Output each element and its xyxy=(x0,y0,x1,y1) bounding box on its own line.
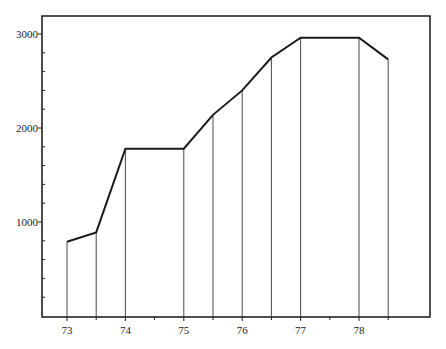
x-tick-label: 75 xyxy=(178,324,190,336)
series-line xyxy=(67,38,388,242)
plot-frame xyxy=(42,16,430,317)
y-tick-label: 1000 xyxy=(16,216,39,228)
y-tick-label: 2000 xyxy=(16,122,39,134)
x-tick-label: 74 xyxy=(120,324,132,336)
x-tick-label: 76 xyxy=(237,324,249,336)
y-tick-label: 3000 xyxy=(16,28,39,40)
y-axis-labels: 100020003000 xyxy=(16,28,39,228)
line-chart: 737475767778 100020003000 xyxy=(0,0,446,349)
x-tick-label: 77 xyxy=(295,324,307,336)
x-axis-labels: 737475767778 xyxy=(62,324,366,336)
x-tick-label: 78 xyxy=(354,324,366,336)
x-tick-label: 73 xyxy=(62,324,74,336)
